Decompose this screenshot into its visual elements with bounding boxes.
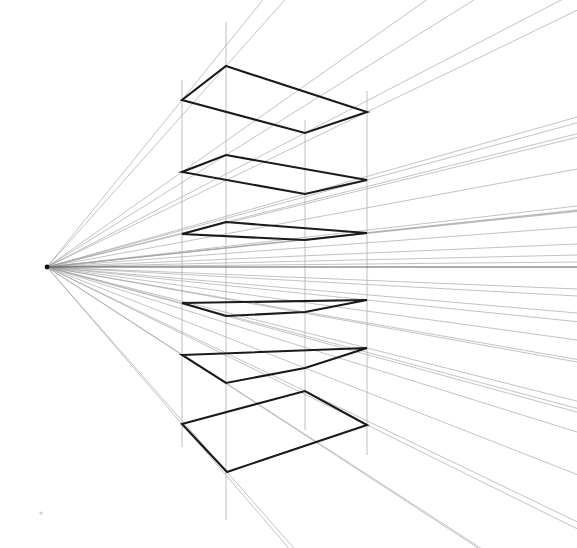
vanishing-point-marker — [45, 265, 50, 270]
perspective-drawing — [0, 0, 577, 548]
perspective-diagram-canvas — [0, 0, 577, 548]
paper-speck — [39, 511, 42, 514]
